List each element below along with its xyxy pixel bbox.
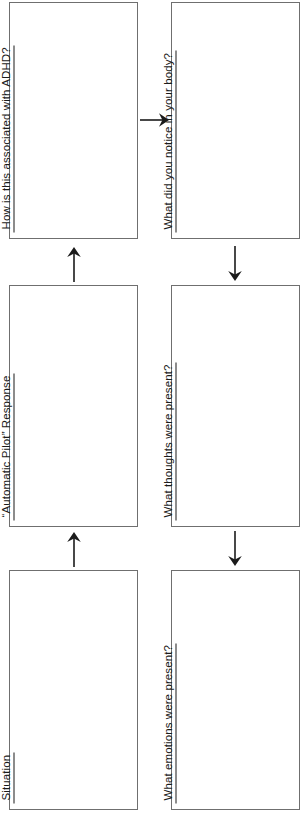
worksheet-canvas: How is this associated with ADHD? “Autom…: [0, 0, 307, 828]
arrow-right-icon-adhd-to-body: [140, 108, 170, 132]
box-label-thoughts: What thoughts were present?: [163, 362, 177, 520]
box-label-situation: Situation: [1, 752, 15, 803]
box-automatic-pilot-response[interactable]: “Automatic Pilot” Response: [9, 285, 138, 527]
box-label-emotions: What emotions were present?: [163, 643, 177, 803]
box-how-associated-adhd[interactable]: How is this associated with ADHD?: [9, 2, 138, 239]
box-emotions[interactable]: What emotions were present?: [171, 570, 300, 810]
box-label-automatic-pilot-response: “Automatic Pilot” Response: [1, 373, 15, 520]
arrow-up-icon-automatic-pilot-to-adhd: [62, 246, 86, 282]
box-thoughts[interactable]: What thoughts were present?: [171, 285, 300, 527]
arrow-down-icon-thoughts-to-emotions: [223, 531, 247, 567]
arrow-up-icon-situation-to-automatic-pilot: [62, 531, 86, 567]
arrow-down-icon-body-to-thoughts: [223, 246, 247, 282]
box-situation[interactable]: Situation: [9, 570, 138, 810]
box-label-how-associated-adhd: How is this associated with ADHD?: [1, 45, 15, 232]
box-body-sensations[interactable]: What did you notice in your body?: [171, 2, 300, 239]
box-label-body-sensations: What did you notice in your body?: [163, 50, 177, 232]
